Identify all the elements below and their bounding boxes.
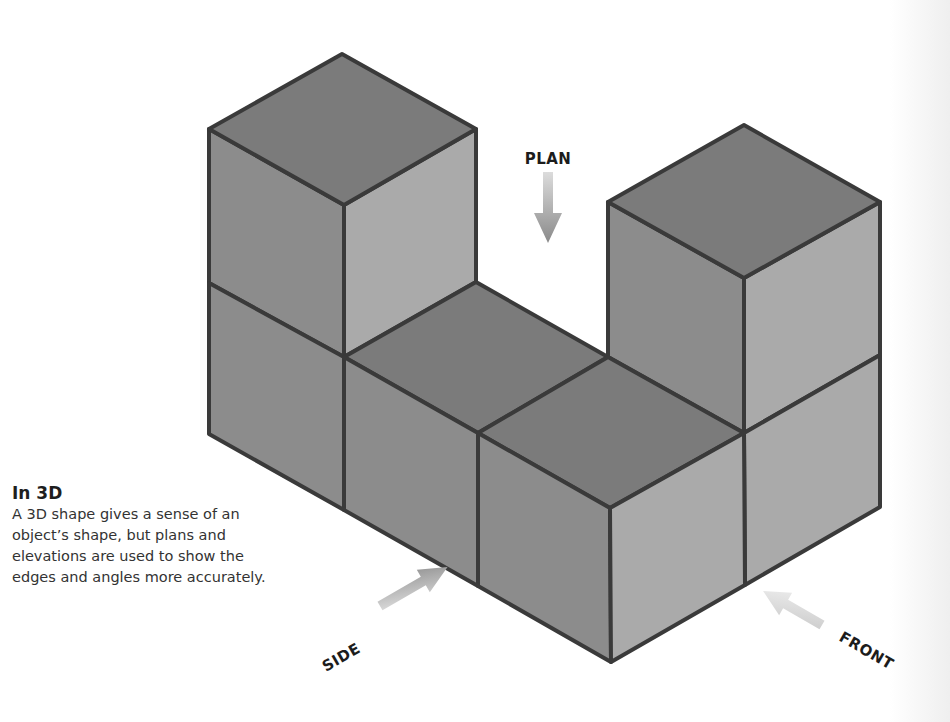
front-arrow-icon [757, 580, 829, 637]
plan-view-indicator: PLAN [525, 150, 572, 243]
front-label: FRONT [836, 628, 897, 674]
isometric-shape-diagram: PLAN SIDE FRONT [0, 0, 950, 722]
side-label: SIDE [319, 639, 364, 675]
plan-arrow-icon [534, 172, 562, 243]
caption-box: In 3D A 3D shape gives a sense of an obj… [12, 482, 292, 588]
plan-label: PLAN [525, 150, 572, 168]
u-shaped-cube-solid [209, 54, 880, 662]
caption-title: In 3D [12, 482, 292, 504]
front-view-indicator: FRONT [757, 580, 897, 674]
side-view-indicator: SIDE [319, 556, 454, 676]
caption-body: A 3D shape gives a sense of an object’s … [12, 504, 292, 588]
